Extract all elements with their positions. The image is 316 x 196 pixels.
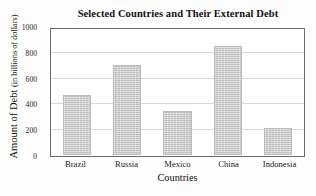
bar-series bbox=[52, 30, 303, 155]
x-tick-label: China bbox=[203, 159, 254, 170]
y-axis-title-main: Amount of Debt bbox=[8, 90, 19, 159]
bar-chart-figure: Selected Countries and Their External De… bbox=[0, 0, 316, 196]
x-tick-label: Indonesia bbox=[254, 159, 305, 170]
x-tick-label: Mexico bbox=[152, 159, 203, 170]
y-tick-label: 800 bbox=[11, 50, 37, 58]
bar[interactable] bbox=[214, 46, 242, 155]
bar[interactable] bbox=[113, 65, 141, 155]
bar-slot bbox=[152, 30, 202, 155]
y-tick-label: 400 bbox=[11, 101, 37, 109]
x-axis-title: Countries bbox=[50, 172, 305, 184]
x-axis-tick-labels: BrazilRussiaMexicoChinaIndonesia bbox=[50, 159, 305, 173]
bar[interactable] bbox=[264, 128, 292, 155]
plot-area bbox=[50, 28, 305, 157]
x-tick-label: Brazil bbox=[50, 159, 101, 170]
bar-slot bbox=[203, 30, 253, 155]
x-tick-label: Russia bbox=[101, 159, 152, 170]
chart-title: Selected Countries and Their External De… bbox=[50, 8, 306, 20]
bar-slot bbox=[52, 30, 102, 155]
y-tick-label: 0 bbox=[11, 153, 37, 161]
y-tick-label: 1000 bbox=[11, 24, 37, 32]
bar[interactable] bbox=[63, 95, 91, 155]
y-tick-label: 200 bbox=[11, 127, 37, 135]
bar-slot bbox=[102, 30, 152, 155]
bar[interactable] bbox=[163, 111, 191, 155]
bar-slot bbox=[253, 30, 303, 155]
y-tick-label: 600 bbox=[11, 76, 37, 84]
